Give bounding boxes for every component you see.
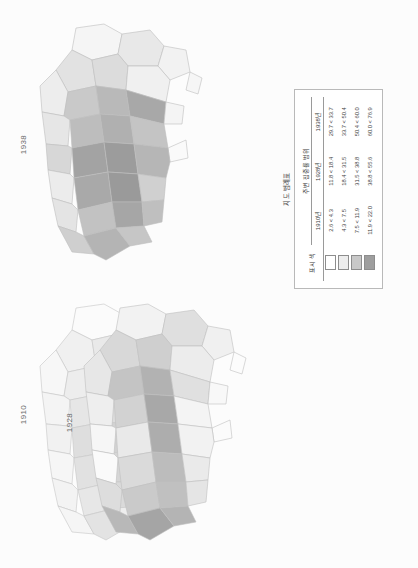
legend-swatch-icon	[351, 255, 362, 270]
legend-row: 7.5 < 11.9 31.5 < 38.8 50.4 < 60.0	[350, 97, 363, 281]
legend-swatch-cell	[350, 245, 363, 281]
legend-value-1910: 11.9 < 22.0	[363, 196, 376, 245]
legend-value-1938: 33.7 < 50.4	[337, 97, 350, 147]
legend-value-1928: 31.5 < 38.8	[350, 147, 363, 196]
legend-value-1938: 29.7 < 33.7	[324, 97, 338, 147]
legend-value-1928: 18.4 < 31.5	[337, 147, 350, 196]
legend-swatch-cell	[363, 245, 376, 281]
legend-row: 4.3 < 7.5 18.4 < 31.5 33.7 < 50.4	[337, 97, 350, 281]
legend-row: 2.6 < 4.3 11.8 < 18.4 29.7 < 33.7	[324, 97, 338, 281]
legend-title: 지도 범례표	[281, 89, 291, 289]
legend-value-1928: 38.8 < 55.6	[363, 147, 376, 196]
legend-group-header: 주변 집중률 범위	[300, 97, 312, 245]
legend-col-1938: 1938년	[312, 97, 324, 147]
legend-box: 표시 색 주변 집중률 범위 1910년 1928년 1938년	[294, 89, 383, 289]
legend-value-1910: 2.6 < 4.3	[324, 196, 338, 245]
legend-swatch-icon	[338, 255, 349, 270]
map-year-label-1938: 1938	[19, 135, 28, 154]
legend-swatch-icon	[364, 255, 375, 270]
legend-value-1910: 4.3 < 7.5	[337, 196, 350, 245]
legend-swatch-cell	[324, 245, 338, 281]
legend-swatch-icon	[325, 255, 336, 270]
choropleth-1928	[62, 300, 252, 550]
choropleth-1938	[18, 20, 208, 270]
legend-table: 표시 색 주변 집중률 범위 1910년 1928년 1938년	[300, 97, 376, 281]
scanned-page: 1938	[0, 0, 418, 568]
map-panel-1928: 1928	[40, 300, 230, 550]
legend-value-1938: 50.4 < 60.0	[350, 97, 363, 147]
legend-value-1928: 11.8 < 18.4	[324, 147, 338, 196]
legend-col-1910: 1910년	[312, 196, 324, 245]
map-panel-1938: 1938	[18, 20, 208, 270]
legend-swatch-cell	[337, 245, 350, 281]
map-year-label-1910: 1910	[19, 405, 28, 424]
legend-value-1910: 7.5 < 11.9	[350, 196, 363, 245]
legend-swatch-header: 표시 색	[300, 245, 324, 281]
legend-group-header-row: 표시 색 주변 집중률 범위	[300, 97, 312, 281]
legend-col-1928: 1928년	[312, 147, 324, 196]
legend-value-1938: 60.0 < 76.9	[363, 97, 376, 147]
legend-row: 11.9 < 22.0 38.8 < 55.6 60.0 < 76.9	[363, 97, 376, 281]
map-legend: 지도 범례표 표시 색 주변 집중률 범위 1910년 1928년 1938년	[246, 52, 418, 252]
